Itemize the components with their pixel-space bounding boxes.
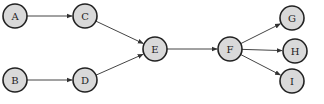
node-label: B xyxy=(11,75,18,86)
node-b: B xyxy=(3,68,27,92)
node-label: I xyxy=(290,76,294,87)
graph-canvas: ABCDEFGHI xyxy=(0,0,324,104)
edge-f-h xyxy=(242,49,282,50)
node-a: A xyxy=(3,4,27,28)
node-i: I xyxy=(280,69,304,93)
node-h: H xyxy=(283,39,307,63)
edge-f-g xyxy=(241,24,281,44)
node-label: H xyxy=(291,46,300,57)
edge-c-e xyxy=(96,21,143,43)
node-c: C xyxy=(73,4,97,28)
node-label: D xyxy=(81,75,89,86)
node-d: D xyxy=(73,68,97,92)
node-label: G xyxy=(288,13,296,24)
node-label: E xyxy=(151,44,158,55)
edge-f-i xyxy=(241,55,281,76)
node-f: F xyxy=(218,37,242,61)
graph-diagram: ABCDEFGHI xyxy=(0,0,324,104)
edge-d-e xyxy=(96,54,143,75)
node-label: A xyxy=(10,11,19,22)
node-e: E xyxy=(143,37,167,61)
node-label: C xyxy=(81,11,89,22)
node-g: G xyxy=(280,6,304,30)
node-label: F xyxy=(227,44,234,55)
